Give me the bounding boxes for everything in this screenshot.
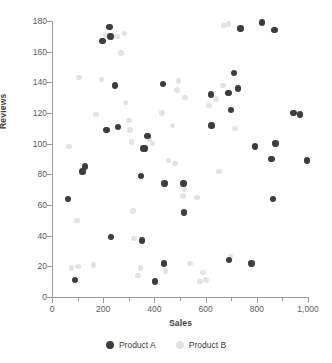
data-point[interactable] bbox=[220, 83, 226, 89]
x-axis-minor-tick bbox=[231, 298, 232, 301]
data-point[interactable] bbox=[65, 196, 72, 203]
data-point[interactable] bbox=[231, 70, 238, 77]
data-point[interactable] bbox=[82, 163, 89, 170]
data-point[interactable] bbox=[75, 264, 81, 270]
data-point[interactable] bbox=[122, 31, 128, 37]
data-point[interactable] bbox=[99, 77, 105, 83]
data-point[interactable] bbox=[163, 268, 169, 274]
y-axis-tick-label: 160 bbox=[7, 48, 47, 57]
data-point[interactable] bbox=[213, 96, 219, 102]
data-point[interactable] bbox=[138, 265, 144, 271]
y-axis-tick-label: 180 bbox=[7, 17, 47, 26]
data-point[interactable] bbox=[206, 103, 212, 109]
data-point[interactable] bbox=[159, 110, 165, 116]
data-point[interactable] bbox=[130, 208, 136, 214]
data-point[interactable] bbox=[194, 195, 200, 201]
x-axis-tick bbox=[206, 298, 207, 303]
data-point[interactable] bbox=[304, 157, 311, 164]
data-point[interactable] bbox=[76, 75, 82, 81]
data-point[interactable] bbox=[126, 118, 132, 124]
data-point[interactable] bbox=[200, 270, 206, 276]
data-point[interactable] bbox=[103, 127, 110, 134]
data-point[interactable] bbox=[131, 236, 137, 242]
data-point[interactable] bbox=[107, 33, 114, 40]
data-point[interactable] bbox=[127, 127, 133, 133]
data-point[interactable] bbox=[72, 277, 79, 284]
data-point[interactable] bbox=[248, 260, 255, 267]
data-point[interactable] bbox=[272, 140, 279, 147]
data-point[interactable] bbox=[106, 24, 113, 31]
data-point[interactable] bbox=[114, 34, 120, 40]
data-point[interactable] bbox=[235, 85, 242, 92]
legend-swatch-circle-icon bbox=[176, 341, 184, 349]
data-point[interactable] bbox=[225, 90, 232, 97]
data-point[interactable] bbox=[166, 158, 172, 164]
data-point[interactable] bbox=[226, 257, 233, 264]
data-point[interactable] bbox=[270, 196, 277, 203]
data-point[interactable] bbox=[144, 133, 151, 140]
data-point[interactable] bbox=[216, 169, 222, 175]
data-point[interactable] bbox=[181, 209, 188, 216]
data-point[interactable] bbox=[135, 273, 141, 279]
data-point[interactable] bbox=[208, 122, 215, 129]
legend-item-product-a[interactable]: Product A bbox=[106, 340, 156, 350]
x-axis-tick bbox=[103, 298, 104, 303]
data-point[interactable] bbox=[129, 139, 135, 145]
data-point[interactable] bbox=[115, 124, 122, 131]
data-point[interactable] bbox=[237, 25, 244, 32]
x-axis-minor-tick bbox=[78, 298, 79, 301]
data-point[interactable] bbox=[138, 173, 145, 180]
x-axis-tick-label: 400 bbox=[132, 305, 176, 314]
data-point[interactable] bbox=[161, 180, 168, 187]
data-point[interactable] bbox=[290, 110, 297, 117]
data-point[interactable] bbox=[174, 87, 180, 93]
data-point[interactable] bbox=[91, 262, 97, 268]
data-point[interactable] bbox=[142, 145, 149, 152]
data-point[interactable] bbox=[271, 27, 278, 34]
legend-label: Product B bbox=[189, 340, 226, 350]
scatter-chart: 020406080100120140160180 02004006008001,… bbox=[0, 0, 332, 363]
x-axis-tick-label: 600 bbox=[184, 305, 228, 314]
data-point[interactable] bbox=[69, 265, 75, 271]
data-point[interactable] bbox=[123, 100, 129, 106]
data-point[interactable] bbox=[252, 143, 259, 150]
data-point[interactable] bbox=[180, 193, 186, 199]
data-point[interactable] bbox=[182, 95, 188, 101]
data-point[interactable] bbox=[118, 50, 124, 56]
y-axis-tick-label: 140 bbox=[7, 78, 47, 87]
data-point[interactable] bbox=[112, 82, 119, 89]
legend-item-product-b[interactable]: Product B bbox=[176, 340, 226, 350]
data-point[interactable] bbox=[170, 123, 176, 129]
data-point[interactable] bbox=[172, 161, 178, 167]
y-axis-tick-label: 60 bbox=[7, 201, 47, 210]
data-point[interactable] bbox=[93, 112, 99, 118]
plot-area bbox=[52, 21, 308, 297]
data-point[interactable] bbox=[197, 279, 203, 285]
chart-legend: Product AProduct B bbox=[0, 340, 332, 350]
data-point[interactable] bbox=[228, 107, 235, 114]
x-axis-tick-label: 200 bbox=[81, 305, 125, 314]
data-point[interactable] bbox=[74, 218, 80, 224]
data-point[interactable] bbox=[139, 237, 146, 244]
data-point[interactable] bbox=[182, 187, 188, 193]
data-point[interactable] bbox=[66, 144, 72, 150]
y-axis-title: Reviews bbox=[0, 94, 8, 129]
data-point[interactable] bbox=[259, 19, 266, 26]
x-axis-tick bbox=[308, 298, 309, 303]
data-point[interactable] bbox=[180, 180, 187, 187]
data-point[interactable] bbox=[152, 278, 159, 285]
data-point[interactable] bbox=[226, 21, 232, 27]
data-point[interactable] bbox=[232, 126, 238, 132]
data-point[interactable] bbox=[161, 260, 168, 267]
data-point[interactable] bbox=[203, 277, 209, 283]
data-point[interactable] bbox=[99, 38, 106, 45]
data-point[interactable] bbox=[150, 141, 156, 147]
data-point[interactable] bbox=[176, 78, 182, 84]
x-axis-minor-tick bbox=[282, 298, 283, 301]
data-point[interactable] bbox=[297, 111, 304, 118]
data-point[interactable] bbox=[160, 81, 167, 88]
x-axis-minor-tick bbox=[180, 298, 181, 301]
data-point[interactable] bbox=[108, 234, 115, 241]
data-point[interactable] bbox=[268, 156, 275, 163]
data-point[interactable] bbox=[187, 261, 193, 267]
